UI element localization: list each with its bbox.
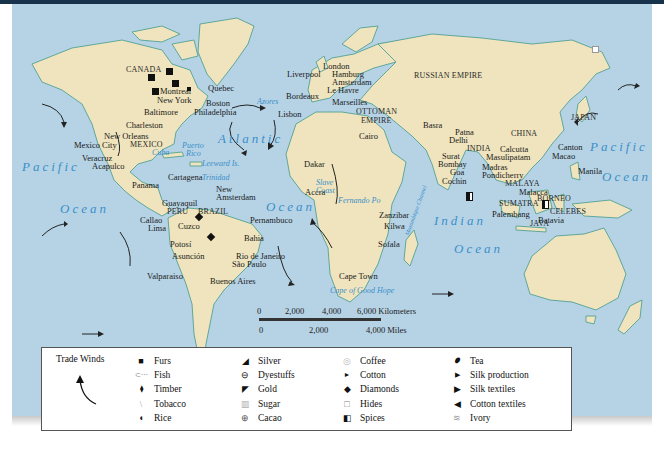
legend-item-spices: ◧Spices: [340, 411, 399, 425]
city-batavia: Batavia: [538, 216, 564, 225]
city-philadelphia: Philadelphia: [194, 108, 237, 117]
region-russian-empire: RUSSIAN EMPIRE: [414, 72, 482, 80]
label-azores: Azores: [257, 98, 278, 106]
legend-label: Silk production: [470, 370, 529, 380]
legend-label: Tea: [470, 356, 484, 366]
city-cartagena: Cartagena: [168, 173, 202, 182]
timber-icon: ⧫: [134, 385, 148, 393]
legend-label: Cotton: [360, 370, 386, 380]
city-manila: Manila: [578, 167, 602, 176]
scale-km-2000: 2,000: [285, 306, 304, 316]
legend-column-2: ◢Silver ⊖Dyestuffs ◤Gold ▥Sugar ⊕Cacao: [238, 354, 295, 425]
scale-mi-0: 0: [259, 325, 263, 335]
city-cuzco: Cuzco: [178, 222, 200, 231]
silk-production-icon: ▶: [450, 371, 464, 379]
ocean-label-west: Ocean: [60, 202, 109, 215]
city-new-amsterdam-2: Amsterdam: [216, 193, 256, 202]
legend-label: Furs: [154, 356, 171, 366]
city-panama: Panama: [132, 181, 159, 190]
city-guayaquil: Guayaquil: [162, 199, 197, 208]
label-puerto-rico-2: Rico: [186, 150, 201, 158]
region-ottoman-empire-1: OTTOMAN: [356, 108, 397, 116]
city-bahia: Bahia: [244, 234, 264, 243]
legend-item-hides: □Hides: [340, 397, 399, 411]
city-delhi: Delhi: [449, 136, 468, 145]
coffee-icon: ◎: [340, 356, 354, 366]
ocean-atlantic: Atlantic: [218, 132, 283, 145]
city-le-havre: Le Havre: [327, 86, 359, 95]
city-liverpool: Liverpool: [287, 70, 321, 79]
city-cairo: Cairo: [359, 132, 378, 141]
label-trinidad: Trinidad: [202, 174, 230, 182]
city-sofala: Sofala: [378, 240, 400, 249]
ocean-label-east: Ocean: [602, 170, 651, 183]
legend-column-1: ■Furs ⊂⋯Fish ⧫Timber \Tobacco ◖Rice: [134, 354, 186, 425]
region-canada: CANADA: [126, 66, 161, 74]
legend-label: Dyestuffs: [258, 370, 295, 380]
sugar-icon: ▥: [238, 399, 252, 409]
legend-box: Trade Winds ■Furs ⊂⋯Fish ⧫Timber \Tobacc…: [41, 347, 572, 431]
city-basra: Basra: [423, 121, 442, 130]
scale-km-0: 0: [257, 306, 261, 316]
legend-item-tobacco: \Tobacco: [134, 397, 186, 411]
label-fernando-po: Fernando Po: [338, 197, 380, 205]
city-pernambuco: Pernambuco: [250, 216, 293, 225]
legend-item-cotton: ►Cotton: [340, 368, 399, 382]
region-brazil: BRAZIL: [198, 208, 228, 216]
legend-label: Silver: [258, 356, 281, 366]
legend-item-silk-textiles: ▶Silk textiles: [450, 382, 529, 396]
ivory-icon: ≋: [450, 413, 464, 423]
ocean-label-atlantic: Ocean: [266, 200, 315, 213]
label-cuba: Cuba: [152, 149, 169, 157]
dyestuffs-icon: ⊖: [238, 370, 252, 380]
scale-mi-2000: 2,000: [309, 325, 328, 335]
legend-item-gold: ◤Gold: [238, 382, 295, 396]
spices-symbol: [542, 200, 549, 209]
legend-label: Spices: [360, 413, 385, 423]
gold-icon: ◤: [238, 384, 252, 394]
city-macao: Macao: [552, 152, 575, 161]
silk-textiles-icon: ▶: [450, 384, 464, 394]
legend-item-cacao: ⊕Cacao: [238, 411, 295, 425]
legend-item-timber: ⧫Timber: [134, 382, 186, 396]
city-cochin: Cochin: [442, 177, 467, 186]
tea-icon: ⬮: [448, 353, 465, 369]
city-quebec: Quebec: [208, 84, 234, 93]
legend-column-3: ◎Coffee ►Cotton ◆Diamonds □Hides ◧Spices: [340, 354, 399, 425]
region-china: CHINA: [511, 130, 537, 138]
region-peru: PERU: [167, 208, 188, 216]
legend-label: Hides: [360, 399, 382, 409]
legend-label: Gold: [258, 384, 277, 394]
scale-mi-4000: 4,000 Miles: [366, 325, 407, 335]
spices-symbol: [466, 192, 473, 201]
city-mexico-city: Mexico City: [74, 141, 117, 150]
city-asuncion: Asunción: [172, 252, 205, 261]
city-marseilles: Marseilles: [332, 98, 367, 107]
city-palembang: Palembang: [492, 210, 530, 219]
city-pondicherry: Pondicherry: [482, 171, 524, 180]
hides-icon: □: [340, 399, 354, 409]
ocean-pacific-east: Pacific: [590, 140, 648, 153]
furs-symbol: [166, 68, 173, 75]
furs-symbol: [148, 74, 155, 81]
rice-icon: ◖: [134, 413, 148, 423]
region-sumatra: SUMATRA: [499, 200, 539, 208]
legend-item-fish: ⊂⋯Fish: [134, 368, 186, 382]
legend-label: Tobacco: [154, 399, 186, 409]
legend-label: Rice: [154, 413, 171, 423]
legend-label: Ivory: [470, 413, 491, 423]
city-malacca: Malacca: [519, 188, 548, 197]
city-kilwa: Kilwa: [384, 222, 405, 231]
legend-label: Cotton textiles: [470, 399, 526, 409]
legend-label: Diamonds: [360, 384, 399, 394]
city-acapulco: Acapulco: [92, 162, 125, 171]
diamonds-icon: ◆: [340, 384, 354, 394]
legend-item-sugar: ▥Sugar: [238, 397, 295, 411]
legend-label: Fish: [154, 370, 170, 380]
furs-symbol: [172, 80, 179, 87]
legend-item-silver: ◢Silver: [238, 354, 295, 368]
cotton-textiles-icon: ◀: [450, 399, 464, 409]
furs-icon: ■: [134, 356, 148, 366]
silver-icon: ◢: [238, 356, 252, 366]
city-dakar: Dakar: [304, 160, 325, 169]
